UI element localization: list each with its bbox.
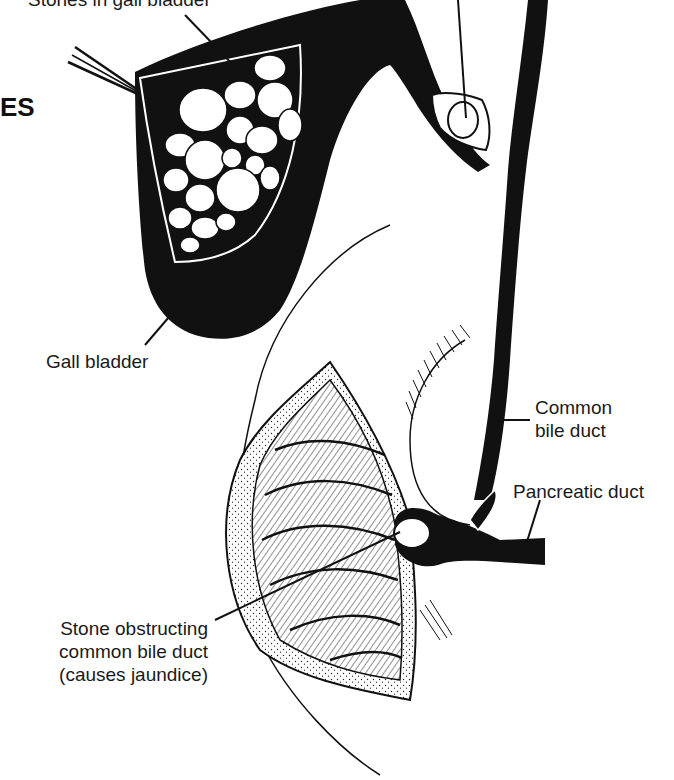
label-stone-obstructing-line1: Stone obstructing [8,617,208,640]
cystic-duct-stone [448,102,478,138]
label-gall-bladder: Gall bladder [46,350,148,373]
label-common-bile-duct-line2: bile duct [535,419,612,442]
label-stone-obstructing-line2: common bile duct [8,640,208,663]
label-pancreatic-duct: Pancreatic duct [513,480,644,503]
forceps [68,47,140,95]
label-common-bile-duct-line1: Common [535,396,612,419]
label-stone-obstructing-line3: (causes jaundice) [8,663,208,686]
label-stones-in-gall-bladder: Stones in gall bladder [28,0,211,11]
label-common-bile-duct: Common bile duct [535,396,612,442]
duodenum-curve [410,340,470,525]
heading-fragment: ES [0,92,35,123]
label-stone-obstructing: Stone obstructing common bile duct (caus… [8,617,208,686]
